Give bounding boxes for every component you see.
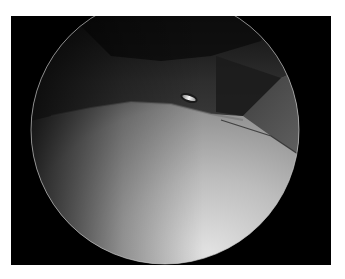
arthroscopic-image xyxy=(11,16,331,265)
scope-field xyxy=(11,16,331,265)
endoscopic-image-frame xyxy=(11,16,331,265)
page xyxy=(0,0,345,279)
